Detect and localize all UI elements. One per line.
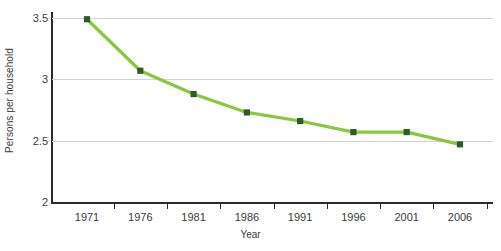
x-axis-tick-label: 2006: [448, 210, 472, 224]
x-axis-tick: [433, 204, 434, 209]
x-axis-tick-label: 1986: [235, 210, 259, 224]
x-axis-tick-label: 1996: [341, 210, 365, 224]
x-axis-tick: [167, 204, 168, 209]
x-axis-tick: [114, 204, 115, 209]
x-axis-tick-label: 1971: [75, 210, 99, 224]
y-axis-tick-label: 2.5: [22, 135, 48, 146]
x-axis-tick-label: 1976: [128, 210, 152, 224]
y-axis-tick-label: 3: [22, 74, 48, 85]
data-point-marker: [84, 16, 90, 22]
data-point-marker: [190, 91, 196, 97]
series-line: [87, 19, 460, 144]
data-point-marker: [457, 141, 463, 147]
data-point-marker: [297, 118, 303, 124]
y-axis-tick-label: 3.5: [22, 13, 48, 24]
y-axis-tick-labels: 22.533.5: [20, 0, 48, 251]
line-chart: Persons per household 22.533.5 197119761…: [0, 0, 501, 251]
data-point-marker: [350, 129, 356, 135]
y-axis-tick-label: 2: [22, 197, 48, 208]
data-point-marker: [244, 109, 250, 115]
x-axis-tick-label: 1991: [288, 210, 312, 224]
x-axis-tick-label: 1981: [181, 210, 205, 224]
x-axis-tick: [380, 204, 381, 209]
x-axis-line: [51, 202, 493, 204]
x-axis-title: Year: [0, 229, 501, 240]
x-axis-tick: [274, 204, 275, 209]
x-axis-tick: [327, 204, 328, 209]
data-point-marker: [137, 68, 143, 74]
data-point-marker: [404, 129, 410, 135]
x-axis-tick: [220, 204, 221, 209]
y-axis-title-label: Persons per household: [4, 48, 15, 153]
x-axis-tick-label: 2001: [394, 210, 418, 224]
y-axis-title: Persons per household: [0, 0, 18, 200]
x-axis-tick: [487, 204, 488, 209]
plot-area: [52, 14, 493, 202]
x-axis-title-label: Year: [240, 229, 260, 240]
data-series-line: [52, 14, 493, 202]
